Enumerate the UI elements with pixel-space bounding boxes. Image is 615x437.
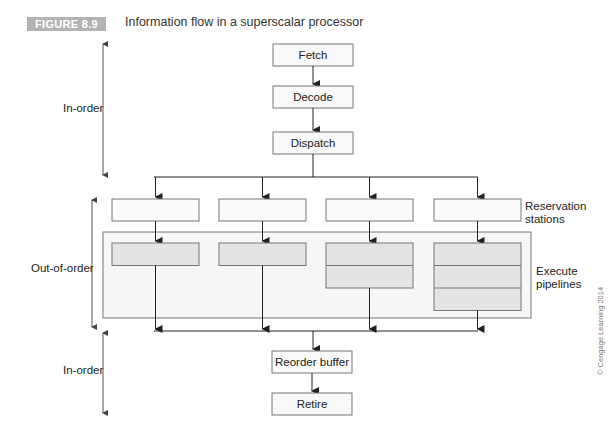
fetch-box: Fetch bbox=[273, 44, 353, 66]
svg-text:Dispatch: Dispatch bbox=[291, 137, 336, 149]
execute-label-line2: pipelines bbox=[536, 278, 581, 291]
svg-text:Decode: Decode bbox=[293, 91, 333, 103]
execute-label-line1: Execute bbox=[536, 265, 581, 278]
pipeline-4 bbox=[434, 177, 521, 329]
execute-unit-box bbox=[112, 243, 199, 266]
reservation-label-line2: stations bbox=[525, 213, 586, 226]
retire-box: Retire bbox=[272, 393, 352, 415]
in-order-top-label: In-order bbox=[63, 102, 103, 114]
reservation-station-box bbox=[112, 199, 199, 221]
reservation-station-box bbox=[434, 199, 521, 221]
dispatch-box: Dispatch bbox=[273, 132, 353, 154]
reorder-buffer-box: Reorder buffer bbox=[272, 351, 352, 373]
decode-box: Decode bbox=[273, 86, 353, 108]
reservation-label-line1: Reservation bbox=[525, 200, 586, 213]
svg-text:Retire: Retire bbox=[297, 398, 328, 410]
copyright-notice: © Cengage Learning 2014 bbox=[596, 287, 605, 375]
execute-unit-box bbox=[434, 243, 521, 311]
svg-text:Reorder buffer: Reorder buffer bbox=[275, 356, 349, 368]
svg-text:Fetch: Fetch bbox=[299, 49, 328, 61]
execute-pipelines-label: Execute pipelines bbox=[536, 265, 581, 291]
out-of-order-label: Out-of-order bbox=[31, 262, 94, 274]
reservation-stations-label: Reservation stations bbox=[525, 200, 586, 226]
in-order-bottom-label: In-order bbox=[63, 364, 103, 376]
execute-unit-box bbox=[219, 243, 306, 266]
reservation-station-box bbox=[219, 199, 306, 221]
reservation-station-box bbox=[326, 199, 413, 221]
